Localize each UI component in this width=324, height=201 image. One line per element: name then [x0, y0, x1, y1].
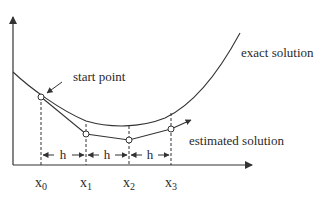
estimate-point-3: [168, 126, 174, 132]
exact-solution-curve: [13, 33, 240, 126]
start-point-marker: [38, 94, 44, 100]
estimate-point-2: [126, 137, 132, 143]
x-tick-label-0: x0: [35, 175, 47, 192]
x-tick-label-1: x1: [80, 175, 92, 192]
svg-text:x1: x1: [80, 175, 92, 192]
estimated-solution-label: estimated solution: [189, 133, 284, 148]
estimated-solution-line: [41, 97, 171, 140]
svg-text:x0: x0: [35, 175, 47, 192]
exact-solution-label: exact solution: [241, 45, 314, 60]
estimate-point-1: [83, 131, 89, 137]
svg-text:x3: x3: [165, 175, 177, 192]
x-tick-label-2: x2: [123, 175, 135, 192]
start-point-label: start point: [73, 69, 126, 84]
svg-text:x2: x2: [123, 175, 135, 192]
euler-method-diagram: h h h start point exact solution estimat…: [0, 0, 324, 201]
h-label-1: h: [60, 147, 67, 162]
x-tick-label-3: x3: [165, 175, 177, 192]
start-point-arrow: [47, 82, 62, 93]
h-label-2: h: [104, 147, 111, 162]
h-label-3: h: [147, 147, 154, 162]
